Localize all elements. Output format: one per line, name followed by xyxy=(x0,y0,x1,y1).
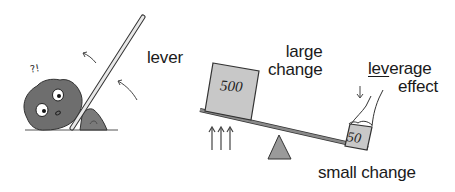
leverage-diagram: ?! lever large change 500 50 leverage ef… xyxy=(0,0,455,192)
fulcrum-triangle xyxy=(268,135,291,159)
leverage-effect-label: leverage effect xyxy=(368,60,438,96)
leverage-underlined: lev xyxy=(368,59,389,78)
seesaw-beam xyxy=(200,110,368,148)
leverage-line2: effect xyxy=(398,78,438,96)
motion-arrows-icon xyxy=(83,52,137,100)
box-50-value: 50 xyxy=(346,129,362,147)
small-change-label: small change xyxy=(318,164,416,182)
large-change-line1: large xyxy=(243,43,323,61)
down-arrow-icon xyxy=(357,86,363,98)
rock-eye-left xyxy=(36,104,48,117)
lever-label: lever xyxy=(147,49,183,67)
large-change-label: large change xyxy=(243,43,323,79)
box-500-value: 500 xyxy=(219,77,243,96)
large-change-line2: change xyxy=(268,61,323,79)
leverage-rest: erage xyxy=(389,59,431,78)
up-arrows-icon xyxy=(209,127,233,150)
lever-bar xyxy=(72,17,143,128)
exclamation-text: ?! xyxy=(29,62,40,74)
